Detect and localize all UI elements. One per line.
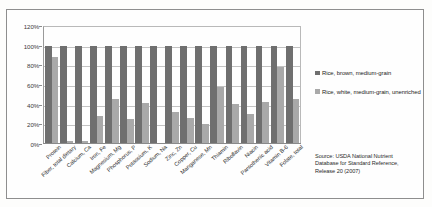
y-axis: 0%20%40%60%80%100%120% [7, 26, 39, 144]
source-line: Source: USDA National Nutrient [315, 153, 429, 160]
bar [165, 46, 172, 144]
y-axis-tick-label: 0% [30, 141, 39, 148]
bar [195, 46, 202, 144]
y-axis-tick [39, 144, 42, 145]
bar-group [210, 26, 225, 143]
bar-group [285, 26, 300, 143]
bar [105, 46, 112, 144]
legend-swatch-icon [315, 71, 320, 76]
bar [142, 103, 149, 143]
legend-item-white: Rice, white, medium-grain, unenriched [315, 89, 431, 97]
bar [112, 99, 119, 143]
bar-group [240, 26, 255, 143]
y-axis-tick [39, 46, 42, 47]
source-note: Source: USDA National NutrientDatabase f… [315, 153, 429, 175]
bar [293, 99, 300, 143]
bar-group [270, 26, 285, 143]
y-axis-tick-label: 60% [27, 82, 39, 89]
bar-group [104, 26, 119, 143]
bar [120, 46, 127, 144]
y-axis-tick-label: 120% [24, 23, 39, 30]
bar [286, 46, 293, 144]
bar [52, 57, 59, 143]
bar-group [180, 26, 195, 143]
y-axis-tick-label: 40% [27, 101, 39, 108]
bar [135, 46, 142, 144]
bar-group [149, 26, 164, 143]
legend-label: Rice, brown, medium-grain [322, 70, 391, 78]
bar [90, 46, 97, 144]
y-axis-tick [39, 85, 42, 86]
bar-group [44, 26, 59, 143]
bar [45, 46, 52, 144]
bar [150, 46, 157, 144]
chart-frame: 0%20%40%60%80%100%120% ProteinFiber, tot… [6, 9, 424, 199]
legend-swatch-icon [315, 89, 320, 94]
bar [210, 46, 217, 144]
bar [262, 102, 269, 143]
y-axis-tick-label: 100% [24, 42, 39, 49]
plot-area [43, 26, 301, 144]
y-axis-tick [39, 65, 42, 66]
bar [226, 46, 233, 144]
bar [247, 114, 254, 143]
bar [172, 112, 179, 143]
y-axis-tick-label: 80% [27, 62, 39, 69]
bar [187, 118, 194, 143]
bar-group [119, 26, 134, 143]
x-axis-labels: ProteinFiber, total dietaryCalcium, CaIr… [43, 144, 301, 206]
chart-page: 0%20%40%60%80%100%120% ProteinFiber, tot… [0, 0, 432, 207]
bar-groups [44, 26, 300, 143]
bar [202, 124, 209, 143]
bar-group [89, 26, 104, 143]
legend-item-brown: Rice, brown, medium-grain [315, 70, 431, 78]
bar [271, 46, 278, 144]
bar [75, 46, 82, 144]
bar [217, 87, 224, 143]
bar [241, 46, 248, 144]
bar [97, 116, 104, 143]
y-axis-tick-label: 20% [27, 121, 39, 128]
bar [60, 46, 67, 144]
bar [180, 46, 187, 144]
bar [256, 46, 263, 144]
bar-group [134, 26, 149, 143]
y-axis-tick [39, 124, 42, 125]
legend-label: Rice, white, medium-grain, unenriched [322, 89, 421, 97]
bar-group [255, 26, 270, 143]
bar-group [225, 26, 240, 143]
bar-group [195, 26, 210, 143]
source-line: Release 20 (2007) [315, 168, 429, 175]
bar [232, 104, 239, 143]
bar [277, 67, 284, 143]
bar-group [165, 26, 180, 143]
chart-legend: Rice, brown, medium-grain Rice, white, m… [315, 70, 431, 107]
y-axis-tick [39, 26, 42, 27]
bar-group [74, 26, 89, 143]
source-line: Database for Standard Reference, [315, 160, 429, 167]
bar [127, 119, 134, 143]
y-axis-tick [39, 105, 42, 106]
bar-group [59, 26, 74, 143]
